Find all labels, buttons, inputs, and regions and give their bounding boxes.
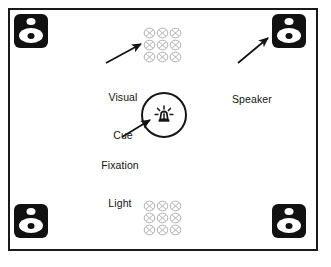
circled-x-icon xyxy=(169,27,182,39)
speaker-woofer-center xyxy=(286,223,293,229)
circled-x-icon xyxy=(169,224,182,236)
circled-x-icon xyxy=(143,39,156,51)
circled-x-icon xyxy=(143,27,156,39)
circled-x-icon xyxy=(156,212,169,224)
speaker-icon xyxy=(14,14,48,48)
speaker-icon xyxy=(272,204,306,238)
diagram-canvas: Visual Cue Speaker Fixation Light xyxy=(0,0,331,267)
speaker-tweeter xyxy=(285,208,294,215)
fixation-light-label: Fixation Light xyxy=(88,134,152,234)
fixation-light-label-line1: Fixation xyxy=(88,159,152,172)
speaker-woofer-center xyxy=(28,223,35,229)
circled-x-icon xyxy=(156,51,169,63)
circled-x-icon xyxy=(156,27,169,39)
fixation-light-label-line2: Light xyxy=(88,197,152,210)
speaker-icon xyxy=(14,204,48,238)
circled-x-icon xyxy=(156,200,169,212)
circled-x-icon xyxy=(169,212,182,224)
circled-x-icon xyxy=(156,224,169,236)
speaker-label: Speaker xyxy=(232,68,272,131)
speaker-tweeter xyxy=(27,18,36,25)
circled-x-icon xyxy=(169,39,182,51)
speaker-woofer-center xyxy=(28,33,35,39)
speaker-woofer xyxy=(19,218,43,233)
speaker-icon xyxy=(272,14,306,48)
speaker-woofer-center xyxy=(286,33,293,39)
speaker-woofer xyxy=(19,28,43,43)
circled-x-icon xyxy=(143,51,156,63)
circled-x-icon xyxy=(156,39,169,51)
circled-x-icon xyxy=(169,200,182,212)
visual-cue-grid xyxy=(143,27,182,63)
speaker-tweeter xyxy=(285,18,294,25)
speaker-label-line1: Speaker xyxy=(232,93,272,106)
visual-cue-label-line1: Visual xyxy=(92,91,154,104)
circled-x-icon xyxy=(169,51,182,63)
beacon-lamp-icon xyxy=(152,103,176,127)
speaker-tweeter xyxy=(27,208,36,215)
speaker-woofer xyxy=(277,218,301,233)
speaker-woofer xyxy=(277,28,301,43)
